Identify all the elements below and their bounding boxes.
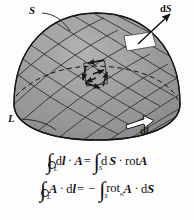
oint-subscript: L — [54, 166, 58, 173]
eq1-A-2: A — [139, 154, 147, 169]
eq2-A-2: A — [124, 182, 132, 197]
eq1-dot-2: · — [119, 153, 123, 168]
label-dl-l: l — [146, 125, 149, 136]
integral-sign-2: ∫S — [99, 181, 105, 200]
eq2-dot-2: · — [134, 181, 138, 196]
eq2-dl-l: l — [73, 182, 76, 197]
stokes-theorem-figure: S dS L dl ∫L dl · A = ∫S dS · rotA ∫L A — [0, 0, 194, 220]
surface-S-body — [14, 13, 180, 140]
equation-stokes-2: ∫L A · dl = − ∫S rotnA · dS — [0, 180, 194, 200]
integral-sign-1: ∫S — [94, 153, 100, 172]
eq2-dS-S: S — [147, 182, 154, 197]
label-line-element-dl: dl — [140, 126, 149, 137]
label-dS-S: S — [166, 3, 172, 14]
eq2-rot: rotn — [106, 181, 123, 198]
contour-integral-sign-2: ∫L — [40, 181, 46, 200]
eq2-dot-1: · — [60, 181, 64, 196]
eq1-A-1: A — [74, 154, 82, 169]
eq1-dS-S: S — [109, 154, 116, 169]
eq1-equals: = — [84, 154, 91, 169]
label-surface-S: S — [29, 5, 35, 16]
eq1-dot-1: · — [68, 153, 72, 168]
equation-stokes-1: ∫L dl · A = ∫S dS · rotA — [0, 152, 194, 172]
integral-subscript-1: S — [99, 165, 103, 172]
eq1-rot: rot — [125, 154, 139, 169]
eq2-minus: − — [88, 182, 95, 197]
oint-subscript-2: L — [47, 194, 51, 201]
label-curve-L: L — [8, 113, 15, 124]
eq1-dl-l: l — [62, 154, 65, 169]
label-area-element-dS: dS — [160, 4, 172, 15]
contour-integral-sign: ∫L — [47, 153, 53, 172]
eq2-rot-text: rot — [106, 181, 120, 195]
eq2-equals: = — [77, 182, 84, 197]
equations-block: ∫L dl · A = ∫S dS · rotA ∫L A · dl = − — [0, 150, 194, 220]
integral-subscript-2: S — [104, 193, 108, 200]
